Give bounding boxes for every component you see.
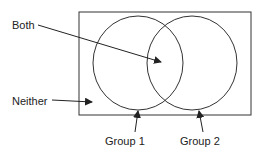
group-1-arrow: [135, 111, 138, 132]
group-2-label: Group 2: [180, 135, 220, 147]
group-2-arrow: [199, 111, 203, 132]
neither-arrow: [52, 100, 92, 102]
both-arrow: [38, 25, 161, 62]
universe-rectangle: [79, 12, 251, 115]
neither-label: Neither: [12, 95, 48, 107]
group-1-circle: [93, 16, 183, 110]
both-label: Both: [12, 19, 35, 31]
group-1-label: Group 1: [105, 135, 145, 147]
group-2-circle: [147, 16, 237, 110]
venn-diagram: Both Neither Group 1 Group 2: [0, 0, 258, 153]
